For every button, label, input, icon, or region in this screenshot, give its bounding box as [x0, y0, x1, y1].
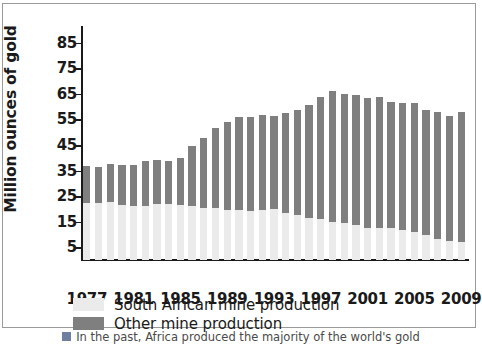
bar-segment-other-mine-production — [305, 105, 312, 218]
bar-segment-south-african-mine-production — [294, 215, 301, 260]
bar-segment-south-african-mine-production — [341, 223, 348, 260]
bar-1985 — [177, 158, 184, 260]
x-tick-label: 2005 — [394, 292, 435, 307]
bar-segment-other-mine-production — [212, 128, 219, 208]
y-axis-title: Million ounces of gold — [0, 4, 23, 234]
bar-segment-south-african-mine-production — [142, 206, 149, 260]
bar-segment-other-mine-production — [434, 112, 441, 238]
bar-2002 — [376, 97, 383, 260]
bar-1996 — [305, 105, 312, 260]
bar-segment-other-mine-production — [188, 146, 195, 206]
legend-swatch — [73, 317, 104, 330]
bar-segment-other-mine-production — [422, 110, 429, 235]
bar-2005 — [411, 103, 418, 260]
y-tick-label: 45 — [57, 138, 77, 153]
bar-1990 — [235, 117, 242, 260]
legend: South African mine productionOther mine … — [73, 296, 339, 334]
bar-1983 — [153, 160, 160, 260]
bar-segment-south-african-mine-production — [446, 241, 453, 260]
bar-1999 — [341, 94, 348, 260]
x-tick-label: 2009 — [441, 292, 482, 307]
bar-2007 — [434, 112, 441, 260]
bar-segment-south-african-mine-production — [235, 210, 242, 260]
bar-1993 — [270, 116, 277, 260]
y-tick-label: 65 — [57, 86, 77, 101]
bar-segment-other-mine-production — [294, 110, 301, 215]
figure-container: Million ounces of gold 51525354555657585… — [0, 0, 482, 344]
bar-1981 — [130, 165, 137, 260]
y-tick-label: 75 — [57, 61, 77, 76]
bar-segment-other-mine-production — [177, 158, 184, 205]
plot-area: 51525354555657585 1977198119851989199319… — [81, 30, 467, 260]
bar-segment-south-african-mine-production — [317, 219, 324, 260]
bar-segment-south-african-mine-production — [224, 210, 231, 260]
bar-segment-south-african-mine-production — [282, 213, 289, 260]
bar-segment-south-african-mine-production — [165, 204, 172, 260]
bar-segment-south-african-mine-production — [364, 228, 371, 260]
bar-2003 — [387, 102, 394, 260]
bar-segment-south-african-mine-production — [83, 203, 90, 260]
bar-segment-other-mine-production — [142, 161, 149, 206]
bar-1978 — [95, 167, 102, 260]
bar-segment-south-african-mine-production — [200, 208, 207, 260]
bar-segment-other-mine-production — [107, 164, 114, 202]
bar-segment-other-mine-production — [165, 161, 172, 204]
bar-segment-south-african-mine-production — [352, 225, 359, 260]
bar-segment-other-mine-production — [411, 103, 418, 233]
bar-segment-other-mine-production — [376, 97, 383, 228]
chart-frame: Million ounces of gold 51525354555657585… — [2, 3, 476, 328]
y-tick-label: 35 — [57, 163, 77, 178]
caption-text: In the past, Africa produced the majorit… — [76, 331, 420, 344]
bar-segment-other-mine-production — [364, 98, 371, 228]
figure-caption: In the past, Africa produced the majorit… — [0, 331, 482, 344]
bar-2001 — [364, 98, 371, 260]
bar-segment-south-african-mine-production — [270, 209, 277, 260]
bar-1979 — [107, 164, 114, 260]
legend-label: South African mine production — [114, 296, 339, 314]
y-tick-label: 55 — [57, 112, 77, 127]
bar-segment-south-african-mine-production — [177, 205, 184, 260]
bar-segment-other-mine-production — [446, 116, 453, 242]
bar-1986 — [188, 146, 195, 260]
bar-1995 — [294, 109, 301, 260]
bar-1991 — [247, 117, 254, 260]
bar-segment-south-african-mine-production — [95, 203, 102, 260]
bar-2009 — [458, 112, 465, 260]
bar-2000 — [352, 95, 359, 260]
bar-1992 — [259, 115, 266, 260]
bar-segment-south-african-mine-production — [387, 228, 394, 260]
bar-segment-other-mine-production — [282, 113, 289, 213]
bar-segment-other-mine-production — [259, 115, 266, 211]
bar-1982 — [142, 161, 149, 260]
bar-segment-south-african-mine-production — [305, 218, 312, 260]
bar-1994 — [282, 113, 289, 260]
bar-segment-other-mine-production — [130, 165, 137, 206]
bar-segment-other-mine-production — [95, 167, 102, 203]
bar-segment-other-mine-production — [200, 138, 207, 208]
bar-1980 — [118, 165, 125, 260]
y-tick-label: 25 — [57, 189, 77, 204]
bar-segment-other-mine-production — [118, 165, 125, 205]
bar-segment-other-mine-production — [247, 117, 254, 210]
bar-segment-other-mine-production — [329, 91, 336, 221]
bar-1977 — [83, 166, 90, 260]
legend-item: South African mine production — [73, 296, 339, 313]
bar-1987 — [200, 138, 207, 260]
legend-swatch — [73, 298, 104, 311]
bar-segment-other-mine-production — [224, 122, 231, 210]
bar-2004 — [399, 103, 406, 260]
y-tick-label: 15 — [57, 214, 77, 229]
bar-segment-south-african-mine-production — [411, 232, 418, 260]
bar-1997 — [317, 97, 324, 260]
bar-segment-south-african-mine-production — [399, 230, 406, 260]
bar-segment-other-mine-production — [399, 103, 406, 231]
bar-segment-south-african-mine-production — [329, 222, 336, 260]
bar-segment-south-african-mine-production — [118, 205, 125, 260]
legend-label: Other mine production — [114, 315, 282, 333]
bar-1998 — [329, 91, 336, 260]
legend-item: Other mine production — [73, 315, 339, 332]
bar-2008 — [446, 116, 453, 260]
bar-segment-south-african-mine-production — [376, 228, 383, 260]
bar-segment-other-mine-production — [235, 117, 242, 210]
bar-segment-south-african-mine-production — [247, 211, 254, 260]
